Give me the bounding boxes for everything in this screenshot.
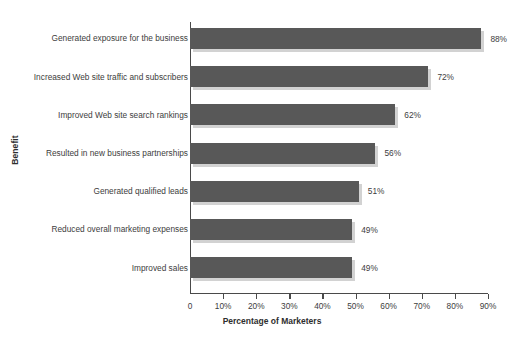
x-axis-tick-label: 20% — [248, 301, 265, 311]
x-axis-tick-label: 60% — [380, 301, 397, 311]
category-label: Reduced overall marketing expenses — [0, 225, 188, 233]
bar-fill — [190, 219, 352, 240]
x-axis-tick — [256, 294, 257, 299]
category-label: Generated qualified leads — [0, 187, 188, 195]
x-axis-tick-label: 10% — [215, 301, 232, 311]
x-axis-tick — [455, 294, 456, 299]
bar-value-label: 51% — [368, 181, 385, 202]
bar — [190, 257, 352, 278]
x-axis-tick-label: 40% — [314, 301, 331, 311]
x-axis-tick — [389, 294, 390, 299]
bar-row: Improved Web site search rankings62% — [26, 98, 518, 131]
x-axis-tick-label: 0 — [188, 301, 193, 311]
bar — [190, 143, 375, 164]
bar — [190, 104, 395, 125]
x-axis-line — [190, 293, 488, 294]
x-axis-tick — [223, 294, 224, 299]
bar-fill — [190, 143, 375, 164]
bar-row: Reduced overall marketing expenses49% — [26, 213, 518, 246]
bar-value-label: 72% — [437, 66, 454, 87]
bar-value-label: 62% — [404, 104, 421, 125]
category-label: Improved sales — [0, 264, 188, 272]
bar-value-label: 88% — [490, 28, 507, 49]
x-axis-title: Percentage of Marketers — [26, 316, 518, 326]
bar-fill — [190, 104, 395, 125]
x-axis-tick-label: 30% — [281, 301, 298, 311]
bar — [190, 28, 481, 49]
bar-value-label: 49% — [361, 257, 378, 278]
bar-row: Generated qualified leads51% — [26, 175, 518, 208]
x-axis-tick — [289, 294, 290, 299]
bar-chart: Benefit Generated exposure for the busin… — [0, 0, 522, 350]
x-axis-tick-label: 70% — [413, 301, 430, 311]
x-axis-tick — [488, 294, 489, 299]
bar-value-label: 49% — [361, 219, 378, 240]
bar-row: Improved sales49% — [26, 251, 518, 284]
category-label: Improved Web site search rankings — [0, 111, 188, 119]
plot-area: Generated exposure for the business88%In… — [26, 22, 518, 294]
bar-row: Resulted in new business partnerships56% — [26, 137, 518, 170]
bar-row: Increased Web site traffic and subscribe… — [26, 60, 518, 93]
x-axis-tick — [322, 294, 323, 299]
bar-fill — [190, 66, 428, 87]
bar — [190, 66, 428, 87]
x-axis-tick-label: 50% — [347, 301, 364, 311]
category-label: Generated exposure for the business — [0, 34, 188, 42]
x-axis-tick — [356, 294, 357, 299]
x-axis-tick-label: 80% — [447, 301, 464, 311]
bar-fill — [190, 181, 359, 202]
x-axis-tick — [422, 294, 423, 299]
bar — [190, 181, 359, 202]
bar-fill — [190, 257, 352, 278]
category-label: Increased Web site traffic and subscribe… — [0, 73, 188, 81]
x-axis-tick-label: 90% — [480, 301, 497, 311]
bar-value-label: 56% — [384, 143, 401, 164]
category-label: Resulted in new business partnerships — [0, 149, 188, 157]
bar — [190, 219, 352, 240]
bar-fill — [190, 28, 481, 49]
bar-row: Generated exposure for the business88% — [26, 22, 518, 55]
